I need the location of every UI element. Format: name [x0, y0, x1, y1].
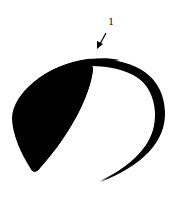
character-diagram	[0, 0, 176, 201]
arrow-shaft	[100, 33, 106, 44]
stroke-number-label: 1	[108, 17, 114, 27]
arrow-head-icon	[97, 41, 103, 49]
right-arc-stroke	[88, 59, 165, 182]
